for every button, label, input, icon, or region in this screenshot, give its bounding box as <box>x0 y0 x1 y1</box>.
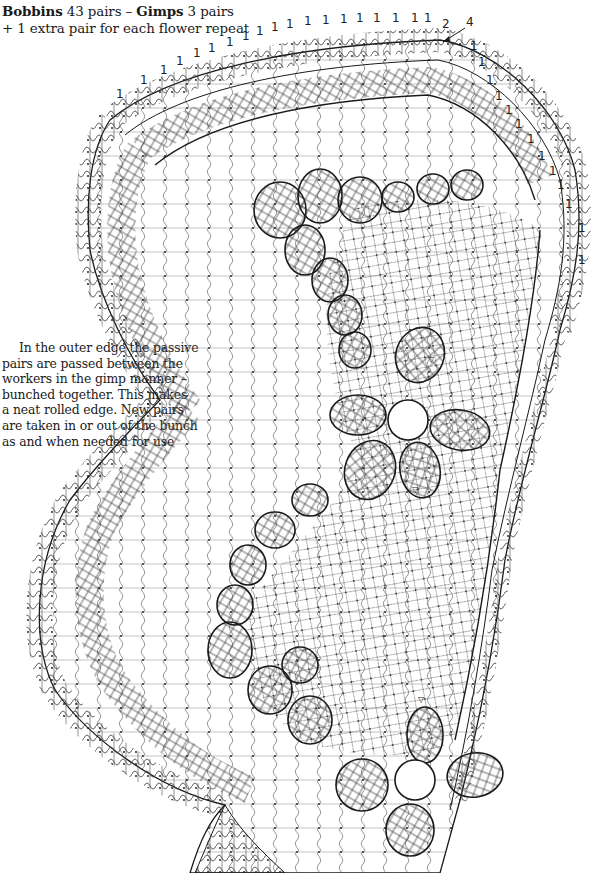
svg-text:1: 1 <box>424 11 432 25</box>
svg-text:2: 2 <box>442 17 450 31</box>
svg-text:1: 1 <box>478 55 486 69</box>
svg-text:1: 1 <box>495 89 503 103</box>
motif-oval <box>292 484 328 516</box>
svg-text:1: 1 <box>486 73 494 87</box>
motif-oval <box>217 585 253 625</box>
svg-text:1: 1 <box>116 87 124 101</box>
svg-text:1: 1 <box>160 63 168 77</box>
svg-text:1: 1 <box>392 11 400 25</box>
petal <box>386 804 434 856</box>
flower-centre <box>388 400 428 440</box>
lace-band <box>39 40 579 873</box>
motif-oval <box>338 177 382 223</box>
svg-text:1: 1 <box>578 221 586 235</box>
svg-text:1: 1 <box>373 11 381 25</box>
svg-text:1: 1 <box>256 24 264 38</box>
motif-oval <box>417 174 449 204</box>
flower-centre <box>395 760 435 800</box>
svg-text:▽: ▽ <box>418 695 425 704</box>
svg-text:1: 1 <box>322 13 330 27</box>
svg-text:1: 1 <box>515 117 523 131</box>
svg-text:1: 1 <box>304 14 312 28</box>
motif-oval <box>288 696 332 744</box>
motif-oval <box>230 545 266 585</box>
petal <box>336 759 388 811</box>
svg-text:1: 1 <box>527 132 535 146</box>
motif-oval <box>382 182 414 212</box>
svg-text:1: 1 <box>226 35 234 49</box>
svg-text:4: 4 <box>466 15 474 29</box>
motif-oval <box>298 169 342 223</box>
svg-text:1: 1 <box>505 103 513 117</box>
svg-text:1: 1 <box>340 12 348 26</box>
petal <box>407 707 443 763</box>
svg-text:1: 1 <box>470 39 478 53</box>
svg-text:▽: ▽ <box>412 485 419 494</box>
motif-oval <box>282 647 318 683</box>
motif-oval <box>339 332 371 368</box>
motif-oval <box>451 170 483 200</box>
motif-oval <box>208 622 252 678</box>
svg-text:1: 1 <box>208 41 216 55</box>
svg-text:1: 1 <box>140 73 148 87</box>
svg-text:1: 1 <box>565 197 573 211</box>
svg-text:1: 1 <box>411 11 419 25</box>
svg-text:▽: ▽ <box>428 355 435 364</box>
svg-text:1: 1 <box>271 20 279 34</box>
motif-oval <box>328 295 362 335</box>
petal <box>330 395 386 435</box>
motif-oval <box>255 512 295 548</box>
svg-text:1: 1 <box>538 149 546 163</box>
svg-text:1: 1 <box>193 46 201 60</box>
svg-text:1: 1 <box>578 253 586 267</box>
svg-text:1: 1 <box>356 11 364 25</box>
svg-text:1: 1 <box>549 164 557 178</box>
svg-text:1: 1 <box>286 17 294 31</box>
svg-text:1: 1 <box>242 29 250 43</box>
svg-text:1: 1 <box>176 54 184 68</box>
lace-pattern-diagram: 1 1 1 1 1 1 1 1 1 1 1 1 1 1 1 1 1 1 1 2 … <box>0 0 604 873</box>
svg-text:1: 1 <box>557 178 565 192</box>
